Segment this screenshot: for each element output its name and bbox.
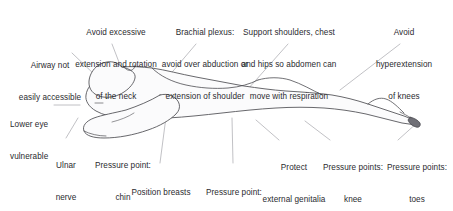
callout-ulnar-nerve-line-1: Ulnar xyxy=(41,161,91,172)
callout-pressure-knee: Pressure points: knee xyxy=(315,142,391,211)
callout-knees-line-3: of knees xyxy=(358,92,450,103)
callout-knees-line-2: hyperextension xyxy=(358,60,450,71)
callout-knee-line-1: Pressure points: xyxy=(315,163,391,174)
callout-support-shoulders-line-1: Support shoulders, chest xyxy=(232,28,346,39)
callout-knees-hyperextension: Avoid hyperextension of knees xyxy=(358,7,450,124)
callout-ulnar-nerve: Ulnar nerve xyxy=(41,140,91,211)
leader-line-iliac-spine xyxy=(232,118,233,163)
callout-support-shoulders: Support shoulders, chest and hips so abd… xyxy=(232,7,346,124)
callout-support-shoulders-line-2: and hips so abdomen can xyxy=(232,60,346,71)
callout-toes-line-2: toes xyxy=(382,195,452,206)
callout-knees-line-1: Avoid xyxy=(358,28,450,39)
callout-knee-line-2: knee xyxy=(315,195,391,206)
leader-line-knee xyxy=(305,121,330,140)
callout-toes-line-1: Pressure points: xyxy=(382,163,452,174)
prone-position-diagram: Airway not easily accessible Avoid exces… xyxy=(0,0,453,211)
callout-ulnar-nerve-line-2: nerve xyxy=(41,193,91,204)
callout-pressure-toes: Pressure points: toes xyxy=(382,142,452,211)
callout-support-shoulders-line-3: move with respiration xyxy=(232,92,346,103)
callout-lower-eye-line-1: Lower eye xyxy=(10,120,60,131)
